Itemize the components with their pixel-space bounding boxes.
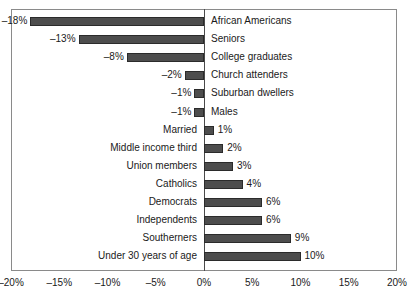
category-label: Independents: [136, 212, 197, 228]
category-label: Catholics: [156, 176, 197, 192]
bar-chart: African Americans–18%Seniors–13%College …: [0, 0, 418, 298]
bar-row: College graduates–8%: [0, 50, 418, 66]
category-label: Democrats: [149, 194, 197, 210]
value-label: 1%: [218, 122, 232, 138]
bar: [204, 234, 291, 243]
x-axis-tick-labels: –20%–15%–10%–5%0%5%10%15%20%: [0, 276, 418, 292]
value-label: 6%: [266, 194, 280, 210]
x-tick-label: –5%: [146, 276, 166, 290]
bar: [204, 216, 262, 225]
bar: [185, 71, 204, 80]
x-tick-label: 0%: [197, 276, 211, 290]
x-tick-label: –10%: [95, 276, 121, 290]
bar-row: Southerners9%: [0, 231, 418, 247]
bar: [204, 180, 243, 189]
bar-row: Under 30 years of age10%: [0, 249, 418, 265]
category-label: African Americans: [211, 13, 292, 29]
bar-row: Seniors–13%: [0, 32, 418, 48]
bar: [204, 252, 301, 261]
value-label: –18%: [2, 13, 28, 29]
value-label: –8%: [104, 49, 124, 65]
bar: [194, 108, 204, 117]
value-label: 3%: [237, 158, 251, 174]
value-label: –13%: [50, 31, 76, 47]
value-label: 4%: [247, 176, 261, 192]
value-label: –1%: [171, 104, 191, 120]
bar-row: Married1%: [0, 123, 418, 139]
x-tick-label: 20%: [387, 276, 407, 290]
x-tick-label: 10%: [290, 276, 310, 290]
category-label: Married: [163, 122, 197, 138]
category-label: College graduates: [211, 49, 292, 65]
bar-row: Middle income third2%: [0, 141, 418, 157]
bar-row: Democrats6%: [0, 195, 418, 211]
bar: [79, 35, 204, 44]
value-label: 9%: [295, 230, 309, 246]
value-label: 10%: [305, 248, 325, 264]
bar: [204, 126, 214, 135]
category-label: Church attenders: [211, 67, 288, 83]
category-label: Under 30 years of age: [98, 248, 197, 264]
value-label: 2%: [227, 140, 241, 156]
category-label: Suburban dwellers: [211, 85, 294, 101]
bar-row: African Americans–18%: [0, 14, 418, 30]
category-label: Southerners: [143, 230, 197, 246]
bar: [30, 17, 204, 26]
x-tick-label: 15%: [339, 276, 359, 290]
bar: [127, 53, 204, 62]
category-label: Males: [211, 104, 238, 120]
value-label: –2%: [162, 67, 182, 83]
bar: [194, 89, 204, 98]
bar: [204, 198, 262, 207]
x-tick-label: –20%: [0, 276, 24, 290]
bar-row: Union members3%: [0, 159, 418, 175]
category-label: Seniors: [211, 31, 245, 47]
bar-row: Males–1%: [0, 105, 418, 121]
bar: [204, 162, 233, 171]
value-label: –1%: [171, 85, 191, 101]
bar-row: Church attenders–2%: [0, 68, 418, 84]
bar-row: Independents6%: [0, 213, 418, 229]
bar-row: Catholics4%: [0, 177, 418, 193]
bar-row: Suburban dwellers–1%: [0, 86, 418, 102]
bar: [204, 144, 223, 153]
x-tick-label: 5%: [245, 276, 259, 290]
bar-rows-container: African Americans–18%Seniors–13%College …: [0, 0, 418, 271]
value-label: 6%: [266, 212, 280, 228]
category-label: Middle income third: [110, 140, 197, 156]
category-label: Union members: [126, 158, 197, 174]
x-tick-label: –15%: [46, 276, 72, 290]
